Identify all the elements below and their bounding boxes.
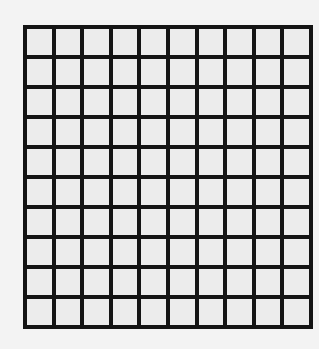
grid-cell [141,149,166,175]
grid-cell [27,59,52,85]
grid-cell [56,29,81,55]
grid-cell [284,179,309,205]
grid-cell [27,299,52,325]
grid-cell [56,269,81,295]
grid-cell [84,119,109,145]
grid-cell [56,119,81,145]
grid-cell [84,59,109,85]
grid-cell [170,239,195,265]
grid-cell [256,119,281,145]
grid-cell [170,209,195,235]
grid-cell [113,29,138,55]
grid-cell [56,299,81,325]
grid-cell [56,89,81,115]
grid-cell [170,269,195,295]
grid-cell [84,149,109,175]
grid-cell [199,119,224,145]
grid-cell [227,29,252,55]
grid-cell [199,89,224,115]
grid-cell [284,239,309,265]
grid-cell [199,299,224,325]
grid-cell [256,299,281,325]
grid-cell [84,89,109,115]
grid-cell [113,149,138,175]
grid-cell [84,299,109,325]
grid-cell [256,59,281,85]
grid-cell [170,179,195,205]
grid-cell [199,179,224,205]
grid-cell [256,89,281,115]
grid-cell [141,179,166,205]
grid-cell [170,119,195,145]
grid-cell [113,119,138,145]
grid-cell [170,299,195,325]
grid-cell [84,29,109,55]
grid-cell [199,29,224,55]
grid-cell [256,179,281,205]
grid-cell [227,299,252,325]
grid-cell [227,89,252,115]
grid-cell [141,269,166,295]
grid-cell [227,59,252,85]
grid-cell [227,269,252,295]
grid-cell [27,239,52,265]
grid-cell [141,299,166,325]
grid-cell [27,209,52,235]
grid-cell [113,209,138,235]
grid-cell [284,269,309,295]
grid-cell [199,149,224,175]
grid-cell [27,179,52,205]
grid-cell [56,179,81,205]
grid-cell [141,59,166,85]
grid-cell [56,149,81,175]
grid-cell [27,119,52,145]
grid-cell [84,239,109,265]
grid-cell [170,149,195,175]
grid-cell [227,149,252,175]
grid-cell [284,299,309,325]
grid-cell [284,59,309,85]
grid-cell [113,239,138,265]
grid-cell [284,149,309,175]
grid-cell [284,119,309,145]
grid-cell [170,59,195,85]
grid-cell [27,89,52,115]
grid-cell [199,59,224,85]
grid-cell [256,149,281,175]
grid-cell [27,29,52,55]
grid-cell [227,119,252,145]
grid-cell [227,179,252,205]
grid-cell [227,209,252,235]
grid-cell [170,29,195,55]
grid-cell [199,269,224,295]
grid-cell [113,269,138,295]
grid-cell [27,269,52,295]
grid-cell [141,89,166,115]
grid-cell [170,89,195,115]
grid-cell [141,29,166,55]
grid-cell [256,269,281,295]
grid-cell [56,239,81,265]
grid-cell [113,89,138,115]
grid-cell [227,239,252,265]
square-grid [23,25,313,329]
grid-cell [141,239,166,265]
grid-cell [141,119,166,145]
grid-cell [284,29,309,55]
grid-cell [84,179,109,205]
grid-cell [113,299,138,325]
grid-cell [199,239,224,265]
grid-cell [256,209,281,235]
grid-cell [284,89,309,115]
grid-cell [56,59,81,85]
grid-cell [141,209,166,235]
grid-cell [199,209,224,235]
grid-cell [84,209,109,235]
grid-cell [113,179,138,205]
grid-cell [56,209,81,235]
grid-cell [256,239,281,265]
grid-cell [256,29,281,55]
grid-cell [113,59,138,85]
grid-cell [284,209,309,235]
grid-cell [84,269,109,295]
